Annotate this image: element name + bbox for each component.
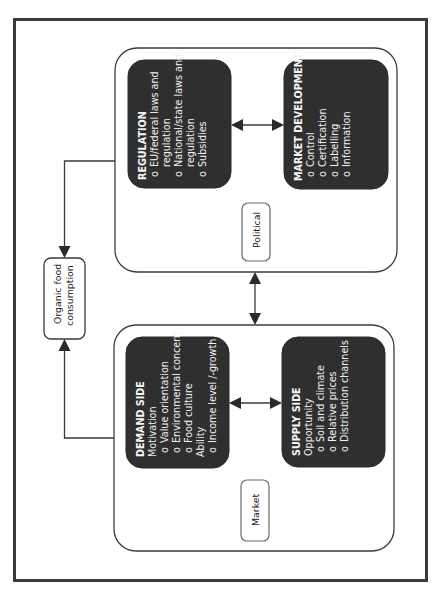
demand-side-heading-ability: Ability [195,427,206,457]
diagram-canvas: REGULATION o EU/federal laws and regulat… [0,0,439,595]
market-development-bullet-icon: o [329,171,340,177]
market-development-item-labelling: Labelling [329,124,340,167]
regulation-item-3-line-1: Subsidies [197,121,208,167]
regulation-bullet-icon: o [173,171,184,177]
market-development-bullet-icon: o [305,171,316,177]
supply-side-heading-opportunity: Opportunity [303,398,314,456]
bullet-icon: o [183,447,194,453]
market-development-item-information: Information [341,111,352,167]
supply-side-title: SUPPLY SIDE [291,387,302,456]
bullet-icon: o [207,447,218,453]
regulation-title: REGULATION [137,111,148,180]
demand-side-title: DEMAND SIDE [135,381,146,457]
market-development-item-certification: Certification [317,108,328,167]
bullet-icon: o [159,447,170,453]
demand-side-item-value-orientation: Value orientation [159,361,170,443]
regulation-bullet-icon: o [197,171,208,177]
market-development-title: MARKET DEVELOPMENT [293,52,304,181]
supply-side-item-relative-prices: Relative prices [327,371,338,442]
demand-side-item-environmental-concern: Environmental concern [171,332,182,443]
bullet-icon: o [171,447,182,453]
demand-side-item-food-culture: Food culture [183,383,194,443]
market-development-bullet-icon: o [341,171,352,177]
organic-food-consumption-line-1: Organic food [52,264,63,324]
market-development-item-control: Control [305,132,316,167]
organic-food-consumption-line-2: consumption [64,265,75,326]
bullet-icon: o [339,446,350,452]
market-label: Market [250,493,261,526]
supply-side-item-distribution-channels: Distribution channels [339,340,350,442]
political-label: Political [251,212,262,248]
regulation-item-1-line-2: regulation [161,118,172,167]
regulation-item-2-line-2: regulation [185,118,196,167]
market-development-bullet-icon: o [317,171,328,177]
regulation-item-2-line-1: National/state laws and [173,54,184,167]
bullet-icon: o [315,446,326,452]
regulation-bullet-icon: o [149,171,160,177]
supply-side-item-soil-and-climate: Soil and climate [315,365,326,442]
demand-side-item-income-level: Income level /-growth [207,339,218,443]
regulation-item-1-line-1: EU/federal laws and [149,71,160,167]
demand-side-heading-motivation: Motivation [147,406,158,457]
bullet-icon: o [327,446,338,452]
